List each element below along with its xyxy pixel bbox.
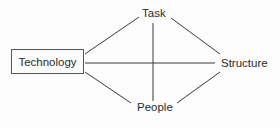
- task-node: Task: [142, 7, 166, 20]
- technology-label: Technology: [18, 56, 76, 68]
- technology-node: Technology: [11, 49, 84, 74]
- edge-people-structure: [177, 72, 220, 103]
- structure-node: Structure: [221, 57, 268, 70]
- edge-task-structure: [171, 18, 220, 54]
- people-node: People: [137, 101, 173, 114]
- edge-technology-people: [85, 72, 131, 103]
- edge-technology-task: [85, 17, 139, 54]
